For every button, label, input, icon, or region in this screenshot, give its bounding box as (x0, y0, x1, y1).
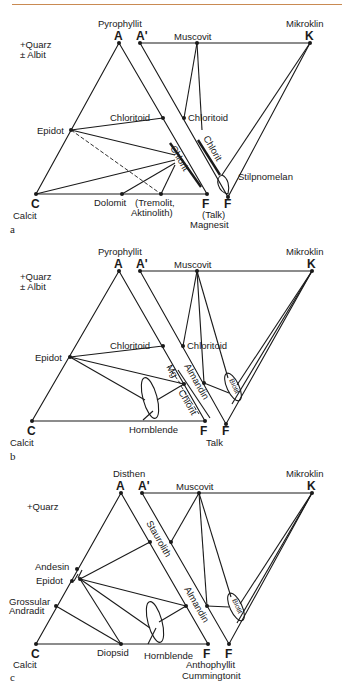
label-staurolith: Staurolith (144, 519, 174, 559)
label-diopsid: Diopsid (97, 647, 129, 658)
label-mikroklin: Mikroklin (286, 18, 323, 29)
label-calcit: Calcit (13, 210, 37, 221)
vertex-c: C (27, 424, 36, 438)
phase-diagrams: Pyrophyllit Mikroklin A A' K Muscovit +Q… (0, 0, 342, 686)
vertex-a: A (116, 479, 125, 493)
label-biotit: Biotit (228, 377, 241, 394)
label-stilpnomelan: Stilpnomelan (238, 171, 293, 182)
vertex-a: A (114, 29, 123, 43)
vertex-a: A (114, 257, 123, 271)
diagram-b: Pyrophyllit Mikroklin A A' K Muscovit +Q… (10, 246, 323, 462)
vertex-a-prime: A' (136, 257, 148, 271)
panel-label-a: a (10, 223, 15, 235)
vertex-k: K (307, 257, 316, 271)
vertex-f: F (200, 424, 207, 438)
label-muscovit: Muscovit (174, 31, 212, 42)
label-aktinolith: Aktinolith) (131, 207, 173, 218)
label-mikroklin: Mikroklin (286, 246, 323, 257)
label-andradit: Andradit (9, 605, 45, 616)
label-chlorit-right: Chlorit (201, 134, 224, 164)
label-chloritoid-left: Chloritoid (110, 112, 150, 123)
label-anthophyllit: Anthophyllit (186, 659, 235, 670)
label-pyrophyllit: Pyrophyllit (98, 246, 142, 257)
vertex-c: C (31, 197, 40, 211)
label-mg: Mg (164, 363, 180, 380)
assemblage-albit: ± Albit (20, 49, 46, 60)
label-epidot: Epidot (35, 352, 62, 363)
label-magnesit: Magnesit (190, 219, 229, 230)
label-mg-chlorit: Chlorit (176, 388, 199, 418)
label-mikroklin: Mikroklin (286, 468, 323, 479)
assemblage-quarz: +Quarz (27, 501, 59, 512)
label-calcit: Calcit (13, 659, 37, 670)
diagram-a: Pyrophyllit Mikroklin A A' K Muscovit +Q… (10, 18, 323, 235)
label-talk: Talk (206, 437, 223, 448)
diagram-c: Disthen Mikroklin A A' K Muscovit +Quarz… (9, 468, 323, 683)
label-muscovit: Muscovit (176, 481, 214, 492)
label-epidot: Epidot (36, 575, 63, 586)
label-epidot: Epidot (37, 125, 64, 136)
vertex-k: K (307, 479, 316, 493)
vertex-a-prime: A' (138, 479, 150, 493)
panel-label-c: c (10, 671, 15, 683)
label-chlorit-left: Chlorit (168, 144, 191, 174)
label-andesin: Andesin (35, 561, 69, 572)
label-chloritoid-left: Chloritoid (110, 340, 150, 351)
label-chloritoid-right: Chloritoid (188, 112, 228, 123)
label-disthen: Disthen (113, 468, 145, 479)
label-dolomit: Dolomit (94, 197, 127, 208)
vertex-a-prime: A' (136, 29, 148, 43)
label-cummingtonit: Cummingtonit (182, 670, 241, 681)
label-chloritoid-right: Chloritoid (187, 340, 227, 351)
vertex-f-prime: F (222, 424, 229, 438)
vertex-k: K (305, 29, 314, 43)
label-hornblende: Hornblende (129, 424, 178, 435)
label-calcit: Calcit (10, 437, 34, 448)
label-pyrophyllit: Pyrophyllit (98, 18, 142, 29)
panel-label-b: b (10, 450, 16, 462)
label-muscovit: Muscovit (174, 259, 212, 270)
assemblage-albit: ± Albit (20, 281, 46, 292)
